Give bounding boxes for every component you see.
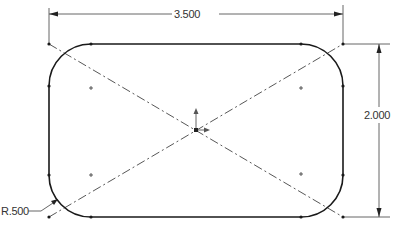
center-mark-icon[interactable] [299, 86, 303, 90]
width-dimension-label[interactable]: 3.500 [174, 8, 200, 20]
endpoint-icon[interactable] [341, 173, 344, 176]
center-mark-icon[interactable] [299, 172, 303, 176]
radius-leader-line [28, 201, 56, 211]
corner-point-icon[interactable] [341, 42, 344, 45]
arrowhead-bottom-icon [377, 208, 382, 217]
arrowhead-right-icon [334, 12, 343, 17]
sketch-canvas[interactable]: 3.500 2.000 [0, 0, 411, 226]
corner-point-icon[interactable] [47, 42, 50, 45]
arrowhead-left-icon [49, 12, 58, 17]
endpoint-icon[interactable] [299, 215, 302, 218]
origin-icon[interactable] [194, 108, 211, 133]
width-dimension[interactable]: 3.500 [49, 5, 343, 44]
corner-point-icon[interactable] [47, 215, 50, 218]
radius-dimension[interactable]: R.500 [1, 199, 58, 217]
endpoint-icon[interactable] [341, 84, 344, 87]
endpoint-icon[interactable] [299, 42, 302, 45]
height-dimension-label[interactable]: 2.000 [364, 109, 390, 121]
center-mark-icon[interactable] [89, 86, 93, 90]
corner-point-icon[interactable] [341, 215, 344, 218]
endpoint-icon[interactable] [89, 215, 92, 218]
center-mark-icon[interactable] [89, 173, 93, 177]
height-dimension[interactable]: 2.000 [343, 44, 390, 217]
endpoint-icon[interactable] [47, 173, 50, 176]
radius-dimension-label[interactable]: R.500 [1, 205, 29, 217]
endpoint-icon[interactable] [47, 84, 50, 87]
arrowhead-top-icon [377, 44, 382, 53]
endpoint-icon[interactable] [89, 42, 92, 45]
